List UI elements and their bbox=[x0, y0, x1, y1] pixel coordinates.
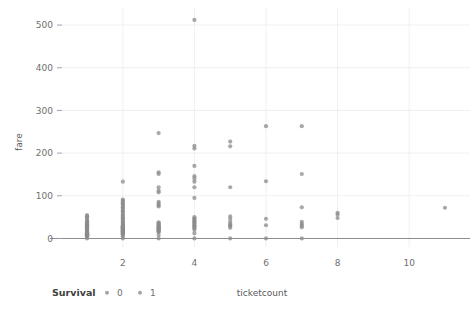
xtick-label-4: 4 bbox=[192, 258, 198, 268]
data-point bbox=[300, 205, 304, 209]
x-axis-tick-labels: 246810 bbox=[120, 258, 415, 268]
data-point bbox=[157, 185, 161, 189]
data-point bbox=[300, 236, 304, 240]
data-point bbox=[264, 223, 268, 227]
data-point bbox=[228, 236, 232, 240]
ytick-label-200: 200 bbox=[36, 148, 53, 158]
data-point bbox=[228, 214, 232, 218]
data-point bbox=[264, 124, 268, 128]
data-point bbox=[264, 179, 268, 183]
legend-label-1[interactable]: 1 bbox=[150, 288, 156, 298]
legend-label-0[interactable]: 0 bbox=[117, 288, 123, 298]
data-point bbox=[192, 164, 196, 168]
data-point bbox=[300, 124, 304, 128]
data-point bbox=[192, 18, 196, 22]
data-point bbox=[228, 139, 232, 143]
data-point bbox=[121, 198, 125, 202]
legend-swatch-1[interactable] bbox=[138, 291, 142, 295]
data-point bbox=[228, 144, 232, 148]
legend: Survival01 bbox=[52, 287, 156, 298]
data-point bbox=[192, 185, 196, 189]
axis-tick-marks bbox=[57, 25, 62, 238]
plot-area: 0100200300400500 246810 fare ticketcount… bbox=[0, 0, 474, 313]
xtick-label-6: 6 bbox=[263, 258, 269, 268]
ytick-label-500: 500 bbox=[36, 20, 53, 30]
data-point bbox=[192, 236, 196, 240]
ytick-label-0: 0 bbox=[47, 234, 53, 244]
data-point bbox=[157, 220, 161, 224]
y-axis-tick-labels: 0100200300400500 bbox=[36, 20, 53, 243]
xtick-label-8: 8 bbox=[335, 258, 341, 268]
data-point bbox=[85, 213, 89, 217]
data-point bbox=[264, 217, 268, 221]
ytick-label-400: 400 bbox=[36, 63, 53, 73]
data-point bbox=[121, 180, 125, 184]
data-point bbox=[192, 196, 196, 200]
data-point bbox=[192, 144, 196, 148]
x-axis-title: ticketcount bbox=[237, 288, 288, 298]
xtick-label-2: 2 bbox=[120, 258, 126, 268]
scatter-chart: 0100200300400500 246810 fare ticketcount… bbox=[0, 0, 474, 313]
data-point bbox=[192, 215, 196, 219]
data-point bbox=[192, 174, 196, 178]
data-point bbox=[300, 172, 304, 176]
y-axis-title: fare bbox=[14, 133, 24, 151]
ytick-label-300: 300 bbox=[36, 106, 53, 116]
xtick-label-10: 10 bbox=[403, 258, 415, 268]
data-point bbox=[228, 185, 232, 189]
legend-swatch-0[interactable] bbox=[105, 291, 109, 295]
data-point bbox=[157, 170, 161, 174]
data-point bbox=[443, 206, 447, 210]
data-point bbox=[264, 236, 268, 240]
data-point bbox=[300, 220, 304, 224]
ytick-label-100: 100 bbox=[36, 191, 53, 201]
legend-title: Survival bbox=[52, 287, 96, 298]
data-point bbox=[335, 211, 339, 215]
data-point bbox=[157, 131, 161, 135]
data-point bbox=[157, 200, 161, 204]
